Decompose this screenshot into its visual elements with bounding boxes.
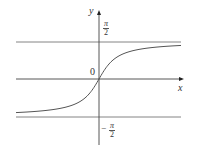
denominator-two: 2: [109, 131, 115, 139]
denominator-two: 2: [103, 29, 109, 37]
origin-label: 0: [90, 66, 95, 77]
x-axis-label: x: [178, 82, 182, 93]
y-axis-arrow-icon: [97, 10, 101, 15]
y-axis-label: y: [89, 5, 93, 16]
pi-over-2-label: π 2: [103, 20, 109, 37]
x-axis-arrow-icon: [179, 77, 184, 81]
neg-pi-over-2-label: π 2: [109, 122, 115, 139]
minus-sign: −: [101, 123, 106, 133]
arctan-plot: [0, 0, 198, 151]
